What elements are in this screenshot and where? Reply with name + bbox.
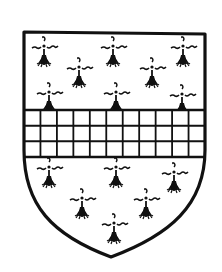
fess-chequy-band <box>24 110 205 157</box>
heraldic-shield-figure <box>0 0 222 272</box>
